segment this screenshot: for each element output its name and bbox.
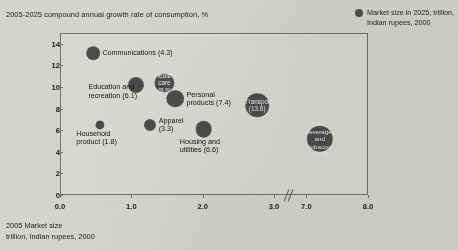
y-tick-label: 10 — [40, 83, 60, 92]
x-tick-label: 0.0 — [55, 202, 66, 211]
y-tick-label: 2 — [40, 169, 60, 178]
bubble-label: Personal products (7.4) — [186, 90, 230, 107]
bubble-transport[interactable]: Transport (13.6) — [246, 94, 268, 116]
bubble-label: Apparel (3.3) — [159, 116, 184, 133]
bubble-label: Communications (4.3) — [102, 49, 172, 57]
y-tick-mark — [60, 152, 63, 153]
bubble-label: Education and recreation (6.1) — [88, 83, 137, 100]
legend-label: Market size in 2025, trillion, Indian ru… — [367, 8, 455, 27]
x-tick-mark — [306, 195, 307, 198]
x-tick-label: 2.0 — [197, 202, 208, 211]
x-tick-label: 8.0 — [363, 202, 374, 211]
x-tick-mark — [368, 195, 369, 198]
x-axis-title-line1: 2005 Market size — [6, 221, 95, 232]
bubble-food-beverages-and-tobacco[interactable]: Food, beverages, and tobacco (17.3) — [307, 126, 332, 151]
x-tick-mark — [60, 195, 61, 198]
x-tick-mark — [203, 195, 204, 198]
y-tick-label: 14 — [40, 39, 60, 48]
y-tick-mark — [60, 109, 63, 110]
y-axis-title: 2005-2025 compound annual growth rate of… — [6, 10, 208, 19]
legend: Market size in 2025, trillion, Indian ru… — [355, 8, 455, 27]
x-axis-title: 2005 Market size trillion, Indian rupees… — [6, 221, 95, 242]
bubble-health-care[interactable]: Health- care (8.9) — [155, 74, 173, 92]
x-axis: 0.01.02.03.07.08.0 — [60, 195, 368, 217]
bubble-size-swatch-icon — [355, 9, 363, 17]
y-tick-mark — [60, 65, 63, 66]
x-tick-label: 3.0 — [269, 202, 280, 211]
y-axis: 02468101214 — [36, 33, 60, 195]
axis-break-icon — [283, 189, 295, 203]
bubble-label: Food, beverages, and tobacco (17.3) — [306, 120, 334, 157]
bubble-chart: 2005-2025 compound annual growth rate of… — [0, 0, 458, 250]
bubble-communications[interactable] — [87, 47, 100, 60]
x-tick-mark — [274, 195, 275, 198]
x-tick-label: 1.0 — [126, 202, 137, 211]
plot-area: Communications (4.3)Education and recrea… — [60, 33, 368, 195]
bubble-label: Housing and utilities (6.6) — [180, 137, 220, 154]
y-tick-mark — [60, 130, 63, 131]
bubble-personal-products[interactable] — [167, 91, 184, 108]
x-tick-mark — [131, 195, 132, 198]
y-tick-label: 8 — [40, 104, 60, 113]
x-axis-title-line2: trillion, Indian rupees, 2000 — [6, 232, 95, 243]
y-tick-label: 4 — [40, 147, 60, 156]
bubble-label: Household product (1.8) — [76, 129, 117, 146]
y-tick-label: 6 — [40, 126, 60, 135]
bubble-label: Transport (13.6) — [245, 98, 270, 113]
y-tick-mark — [60, 44, 63, 45]
y-tick-label: 0 — [40, 191, 60, 200]
bubble-housing-and-utilities[interactable] — [196, 121, 212, 137]
bubble-apparel[interactable] — [145, 119, 156, 130]
x-tick-label: 7.0 — [301, 202, 312, 211]
y-tick-label: 12 — [40, 61, 60, 70]
y-tick-mark — [60, 87, 63, 88]
y-tick-mark — [60, 173, 63, 174]
